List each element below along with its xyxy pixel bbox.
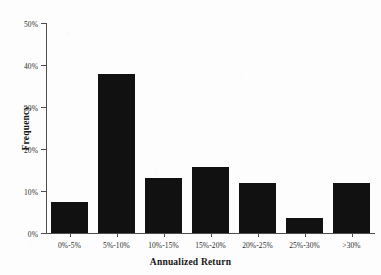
y-axis-tick: 0%: [41, 233, 46, 234]
x-axis-tick-mark: [258, 233, 259, 237]
x-axis-tick-label: >30%: [342, 241, 360, 250]
y-axis-tick-label: 0%: [28, 229, 38, 238]
x-axis-tick-label: 25%-30%: [289, 241, 320, 250]
x-axis-title: Annualized Return: [0, 257, 381, 267]
bar: [333, 183, 371, 233]
bar: [98, 74, 136, 233]
x-axis-tick-mark: [211, 233, 212, 237]
histogram-chart: 0%10%20%30%40%50% 0%-5%5%-10%10%-15%15%-…: [0, 0, 381, 275]
bar: [51, 202, 89, 233]
y-axis-tick-label: 50%: [24, 19, 38, 28]
x-axis-tick-label: 20%-25%: [242, 241, 273, 250]
y-axis-tick-mark: [41, 233, 46, 234]
y-axis-tick-label: 10%: [24, 187, 38, 196]
x-axis-tick-mark: [305, 233, 306, 237]
bars-layer: [46, 23, 375, 233]
x-axis-tick-label: 5%-10%: [103, 241, 130, 250]
x-axis-tick-mark: [352, 233, 353, 237]
x-axis-tick-label: 15%-20%: [195, 241, 226, 250]
x-axis-tick-mark: [117, 233, 118, 237]
y-axis-tick-label: 40%: [24, 61, 38, 70]
x-axis-tick-label: 10%-15%: [148, 241, 179, 250]
bar: [286, 218, 324, 233]
bar: [192, 167, 230, 233]
x-axis-tick-mark: [70, 233, 71, 237]
x-axis-tick-mark: [164, 233, 165, 237]
y-axis-title: Frequency: [21, 106, 31, 151]
bar: [239, 183, 277, 233]
bar: [145, 178, 183, 233]
x-axis-tick-label: 0%-5%: [58, 241, 81, 250]
